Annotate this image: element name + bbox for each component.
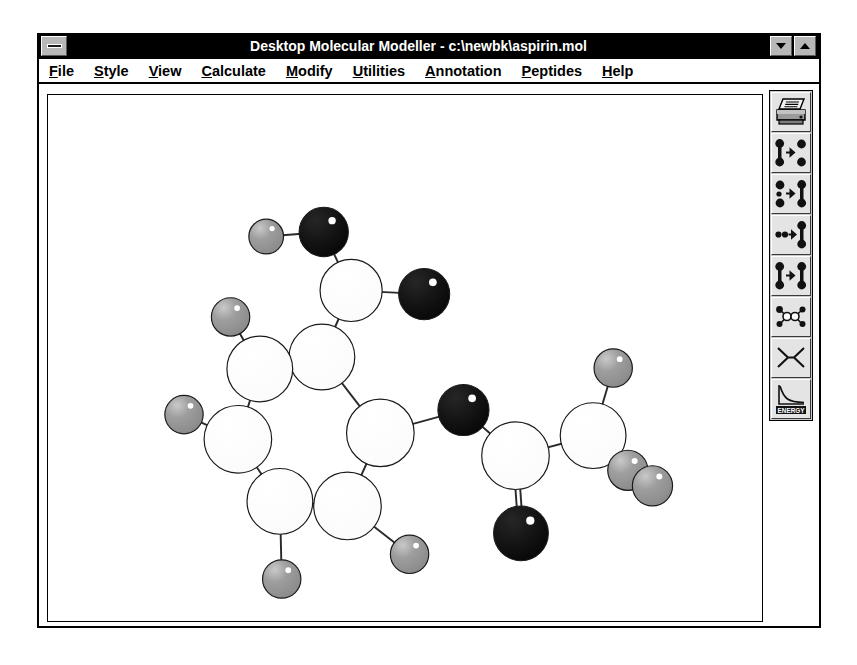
menu-label: nnotation — [436, 63, 502, 79]
menu-item-utilities[interactable]: Utilities — [353, 63, 405, 79]
specular-highlight — [269, 226, 274, 231]
menu-item-view[interactable]: View — [149, 63, 182, 79]
menu-item-style[interactable]: Style — [94, 63, 129, 79]
make-bond-button[interactable] — [771, 174, 811, 214]
chevron-down-icon — [776, 43, 786, 49]
atom-H4-H[interactable] — [263, 560, 301, 598]
atom-H6-H[interactable] — [594, 349, 632, 387]
menu-label: odify — [298, 63, 333, 79]
atom-sphere — [399, 269, 450, 320]
fragment-button[interactable] — [771, 297, 811, 337]
specular-highlight — [656, 474, 662, 480]
atom-sphere — [594, 349, 632, 387]
menu-item-annotation[interactable]: Annotation — [425, 63, 502, 79]
atom-sphere — [204, 405, 272, 473]
specular-highlight — [234, 305, 240, 311]
atom-O4-O[interactable] — [494, 506, 549, 561]
join-atoms-button[interactable] — [771, 215, 811, 255]
join-atoms-icon — [773, 219, 809, 251]
bond-to-bond-icon — [773, 260, 809, 292]
menu-item-modify[interactable]: Modify — [286, 63, 333, 79]
atom-C3-C[interactable] — [227, 336, 293, 402]
menu-accelerator: F — [49, 63, 58, 79]
energy-plot-icon: ENERGY — [773, 382, 809, 416]
bond-to-bond-button[interactable] — [771, 256, 811, 296]
atom-C2-C[interactable] — [289, 324, 355, 390]
atom-C4-C[interactable] — [204, 405, 272, 473]
window-title: Desktop Molecular Modeller - c:\newbk\as… — [67, 38, 770, 54]
energy-button[interactable]: ENERGY — [771, 379, 811, 419]
menu-label: iew — [158, 63, 181, 79]
maximize-button[interactable] — [794, 36, 816, 56]
atom-sphere — [320, 259, 382, 321]
atom-sphere — [314, 472, 382, 540]
chevron-up-icon — [800, 43, 810, 49]
menu-label: alculate — [212, 63, 266, 79]
specular-highlight — [617, 356, 623, 362]
atom-sphere — [247, 468, 313, 534]
atom-C7-C[interactable] — [347, 399, 415, 467]
menu-accelerator: A — [425, 63, 435, 79]
specular-highlight — [188, 403, 194, 409]
atom-sphere — [211, 298, 249, 336]
flip-button[interactable] — [771, 338, 811, 378]
atom-sphere — [494, 506, 549, 561]
atom-C8-C[interactable] — [482, 422, 550, 490]
atom-H1-H[interactable] — [249, 219, 284, 254]
break-bond-button[interactable] — [771, 133, 811, 173]
title-bar: Desktop Molecular Modeller - c:\newbk\as… — [39, 35, 819, 59]
atom-C5-C[interactable] — [247, 468, 313, 534]
atom-sphere — [438, 384, 489, 435]
system-menu-button[interactable] — [41, 36, 67, 56]
specular-highlight — [526, 517, 534, 525]
atom-layer — [165, 207, 673, 598]
printer-icon — [774, 96, 808, 128]
atom-C6-C[interactable] — [314, 472, 382, 540]
print-button[interactable] — [771, 92, 811, 132]
menu-accelerator: H — [602, 63, 612, 79]
atom-sphere — [263, 560, 301, 598]
menu-label: elp — [613, 63, 634, 79]
atom-sphere — [165, 395, 203, 433]
atom-sphere — [249, 219, 284, 254]
work-area: ENERGY — [39, 86, 819, 626]
atom-H8-H[interactable] — [632, 466, 672, 506]
molecule-canvas[interactable] — [47, 94, 763, 622]
atom-H2-H[interactable] — [211, 298, 249, 336]
specular-highlight — [468, 394, 476, 402]
menu-item-help[interactable]: Help — [602, 63, 633, 79]
atom-sphere — [227, 336, 293, 402]
atom-O3-O[interactable] — [438, 384, 489, 435]
atom-sphere — [299, 207, 348, 256]
menu-item-peptides[interactable]: Peptides — [522, 63, 582, 79]
atom-sphere — [347, 399, 415, 467]
menu-label: ile — [58, 63, 74, 79]
minimize-button[interactable] — [770, 36, 792, 56]
tool-palette: ENERGY — [769, 90, 813, 421]
make-bond-icon — [773, 178, 809, 210]
break-bond-icon — [773, 137, 809, 169]
specular-highlight — [429, 278, 437, 286]
atom-O1-O[interactable] — [299, 207, 348, 256]
atom-sphere — [289, 324, 355, 390]
cross-flip-icon — [773, 342, 809, 374]
menu-item-calculate[interactable]: Calculate — [201, 63, 265, 79]
menu-accelerator: U — [353, 63, 363, 79]
atom-H5-H[interactable] — [390, 535, 428, 573]
atom-sphere — [390, 535, 428, 573]
atom-H3-H[interactable] — [165, 395, 203, 433]
menu-label: tilities — [363, 63, 405, 79]
specular-highlight — [413, 543, 419, 549]
atom-O2-O[interactable] — [399, 269, 450, 320]
menu-accelerator: V — [149, 63, 158, 79]
menu-accelerator: C — [201, 63, 211, 79]
menu-accelerator: P — [522, 63, 532, 79]
menu-accelerator: S — [94, 63, 104, 79]
molecule-drawing — [48, 95, 762, 621]
menu-label: tyle — [104, 63, 129, 79]
fragment-icon — [773, 301, 809, 333]
atom-C1-C[interactable] — [320, 259, 382, 321]
specular-highlight — [632, 458, 638, 464]
menu-bar: FileStyleViewCalculateModifyUtilitiesAnn… — [39, 59, 819, 84]
menu-item-file[interactable]: File — [49, 63, 74, 79]
